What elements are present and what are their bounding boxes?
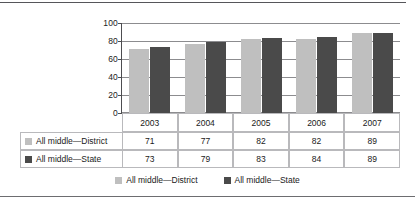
table-header-cell-2005: 2005 <box>233 113 289 132</box>
table-row-state: All middle—State 73 79 83 84 89 <box>20 150 400 168</box>
table-header-cell-2003: 2003 <box>122 113 178 132</box>
table-cell-district-2003: 71 <box>122 132 178 150</box>
legend-item-state: All middle—State <box>224 175 300 185</box>
bar-district-2005 <box>241 39 261 113</box>
table-cell-district-2004: 77 <box>178 132 234 150</box>
table-header-cell-2004: 2004 <box>178 113 234 132</box>
y-tick-label-40: 40 <box>92 73 118 82</box>
bar-state-2005 <box>262 38 282 113</box>
bar-district-2004 <box>185 44 205 113</box>
table-cell-district-2005: 82 <box>233 132 289 150</box>
table-header-cell-2006: 2006 <box>289 113 345 132</box>
table-header-label-cell <box>20 113 122 132</box>
bar-state-2007 <box>373 33 393 113</box>
table-cell-state-2006: 84 <box>289 150 345 168</box>
table-row-label-district: All middle—District <box>20 132 122 150</box>
legend-swatch-district-icon <box>115 177 122 184</box>
table-header-cell-2007: 2007 <box>344 113 400 132</box>
bar-district-2003 <box>129 49 149 113</box>
table-row-label-district-text: All middle—District <box>36 136 107 146</box>
table-cell-state-2005: 83 <box>233 150 289 168</box>
legend-label-state: All middle—State <box>235 175 300 185</box>
legend-swatch-state-icon <box>224 177 231 184</box>
chart-figure: 100 80 60 40 20 0 2003 2004 2005 2006 20… <box>0 0 415 208</box>
table-cell-state-2003: 73 <box>122 150 178 168</box>
y-tick-label-60: 60 <box>92 55 118 64</box>
bar-group-2005 <box>241 23 282 113</box>
table-cell-district-2007: 89 <box>344 132 400 150</box>
table-cell-district-2006: 82 <box>289 132 345 150</box>
table-row-label-state-text: All middle—State <box>36 154 101 164</box>
bar-district-2006 <box>296 39 316 113</box>
bar-group-2003 <box>129 23 170 113</box>
bar-group-2007 <box>352 23 393 113</box>
bottom-divider-rule <box>0 196 415 197</box>
data-table: 2003 2004 2005 2006 2007 All middle—Dist… <box>20 113 400 168</box>
series-swatch-state-icon <box>25 156 32 163</box>
table-cell-state-2004: 79 <box>178 150 234 168</box>
bar-state-2004 <box>206 42 226 113</box>
bar-state-2003 <box>150 47 170 113</box>
bar-group-2004 <box>185 23 226 113</box>
legend-item-district: All middle—District <box>115 175 197 185</box>
table-row-label-state: All middle—State <box>20 150 122 168</box>
table-cell-state-2007: 89 <box>344 150 400 168</box>
bar-state-2006 <box>317 37 337 113</box>
table-row-district: All middle—District 71 77 82 82 89 <box>20 132 400 150</box>
bar-district-2007 <box>352 33 372 113</box>
top-divider-rule <box>0 2 406 3</box>
y-tick-label-20: 20 <box>92 91 118 100</box>
chart-legend: All middle—District All middle—State <box>0 175 415 185</box>
y-tick-label-100: 100 <box>92 19 118 28</box>
legend-label-district: All middle—District <box>126 175 197 185</box>
plot-area <box>122 23 400 113</box>
table-header-row: 2003 2004 2005 2006 2007 <box>20 113 400 132</box>
bar-group-2006 <box>296 23 337 113</box>
series-swatch-district-icon <box>25 138 32 145</box>
y-tick-label-80: 80 <box>92 37 118 46</box>
